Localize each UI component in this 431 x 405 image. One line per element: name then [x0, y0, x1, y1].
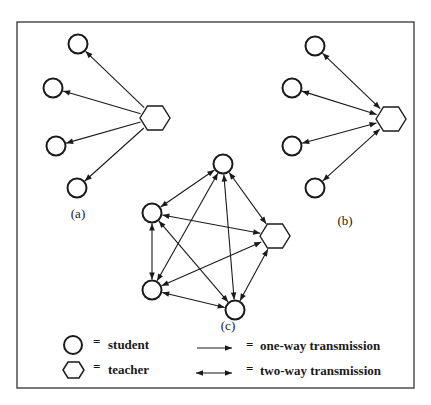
transmission-arrow-c: [224, 174, 234, 299]
student-node: [306, 37, 325, 56]
diagram-label-c: (c): [221, 318, 235, 333]
legend-item-student: = student: [64, 334, 150, 354]
student-node: [47, 137, 66, 156]
legend-item-teacher: = teacher: [63, 359, 149, 378]
transmission-arrow-a: [86, 51, 145, 107]
legend-equals: =: [93, 359, 100, 374]
transmission-arrow-c: [229, 173, 266, 224]
communication-network-figure: (a)(b)(c) = student = teacher = one-way …: [0, 0, 431, 405]
diagram-labels: (a)(b)(c): [71, 206, 353, 333]
legend-label-teacher: teacher: [108, 362, 149, 377]
legend-equals: =: [246, 361, 253, 376]
transmission-arrow-b: [302, 123, 376, 143]
figure-frame: [17, 22, 414, 388]
transmission-arrow-c: [162, 242, 262, 286]
teacher-hexagon-icon: [63, 362, 84, 378]
student-node: [69, 35, 88, 54]
transmission-arrow-a: [66, 122, 140, 143]
diagram-label-b: (b): [337, 213, 352, 228]
transmission-arrow-a: [63, 91, 141, 114]
nodes: [44, 35, 407, 320]
legend-item-two-way: = two-way transmission: [196, 361, 382, 378]
teacher-node: [140, 106, 170, 130]
transmission-arrow-c: [161, 170, 215, 207]
transmission-arrow-c: [162, 215, 260, 233]
teacher-node: [376, 107, 406, 131]
legend-equals: =: [93, 334, 100, 349]
teacher-node: [260, 224, 290, 248]
transmission-arrow-c: [162, 292, 225, 307]
student-node: [214, 155, 233, 174]
student-circle-icon: [64, 336, 82, 354]
legend-item-one-way: = one-way transmission: [197, 337, 381, 353]
student-node: [44, 79, 63, 98]
diagram-label-a: (a): [71, 206, 85, 221]
student-node: [68, 179, 87, 198]
legend-label-student: student: [108, 337, 150, 352]
legend: = student = teacher = one-way transmissi…: [63, 334, 382, 378]
edges: [63, 51, 380, 307]
legend-label-one-way: one-way transmission: [260, 338, 381, 353]
transmission-arrow-a: [85, 128, 144, 181]
student-node: [283, 79, 302, 98]
transmission-arrow-c: [240, 249, 268, 301]
student-node: [143, 281, 162, 300]
student-node: [306, 179, 325, 198]
student-node: [143, 204, 162, 223]
legend-label-two-way: two-way transmission: [260, 363, 382, 378]
student-node: [226, 301, 245, 320]
legend-equals: =: [246, 337, 253, 352]
transmission-arrow-b: [323, 129, 380, 181]
student-node: [283, 137, 302, 156]
